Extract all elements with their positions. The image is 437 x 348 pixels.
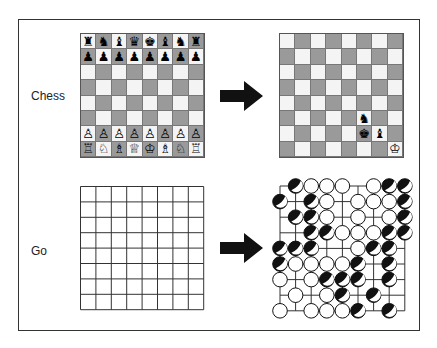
white-stone-icon: [320, 194, 335, 209]
chess-square: [143, 65, 158, 80]
chess-square: [295, 142, 310, 157]
chess-square: [173, 65, 188, 80]
chess-square: ♚: [143, 34, 158, 49]
chess-piece-icon: ♚: [358, 127, 370, 140]
chess-square: ♖: [189, 142, 204, 157]
chess-square: [342, 126, 357, 141]
chess-square: [388, 49, 403, 64]
chess-piece-icon: ♟: [190, 50, 202, 63]
chess-square: [326, 49, 341, 64]
chess-square: ♞: [96, 34, 111, 49]
chess-square: [127, 96, 142, 111]
chess-square: [295, 49, 310, 64]
chess-square: [189, 111, 204, 126]
chess-piece-icon: ♙: [98, 127, 110, 140]
white-stone-icon: [304, 272, 319, 287]
chess-square: [96, 80, 111, 95]
chess-square: ♘: [173, 142, 188, 157]
white-stone-icon: [288, 257, 303, 272]
black-stone-icon: [288, 179, 303, 194]
chess-piece-icon: ♖: [82, 142, 94, 155]
chess-piece-icon: ♗: [113, 142, 125, 155]
chess-piece-icon: ♞: [175, 35, 187, 48]
chess-piece-icon: ♟: [144, 50, 156, 63]
white-stone-icon: [320, 210, 335, 225]
white-stone-icon: [320, 257, 335, 272]
chess-square: [388, 65, 403, 80]
black-stone-icon: [351, 257, 366, 272]
white-stone-icon: [335, 304, 350, 319]
black-stone-icon: [273, 257, 288, 272]
black-stone-icon: [366, 288, 381, 303]
chess-square: [326, 126, 341, 141]
chess-square: ♟: [112, 49, 127, 64]
chess-square: ♗: [112, 142, 127, 157]
white-stone-icon: [366, 194, 381, 209]
black-stone-icon: [398, 226, 413, 241]
chess-square: [96, 65, 111, 80]
chess-piece-icon: ♟: [129, 50, 141, 63]
chess-square: [189, 80, 204, 95]
chess-piece-icon: ♘: [175, 142, 187, 155]
white-stone-icon: [351, 210, 366, 225]
black-stone-icon: [304, 226, 319, 241]
chess-square: ♞: [357, 111, 372, 126]
chess-square: [342, 65, 357, 80]
black-stone-icon: [320, 226, 335, 241]
chess-piece-icon: ♜: [82, 35, 94, 48]
black-stone-icon: [320, 272, 335, 287]
white-stone-icon: [304, 179, 319, 194]
chess-square: [311, 34, 326, 49]
chess-square: [388, 111, 403, 126]
white-stone-icon: [382, 210, 397, 225]
black-stone-icon: [351, 304, 366, 319]
chess-square: ♘: [96, 142, 111, 157]
chess-square: [96, 111, 111, 126]
chess-square: ♟: [158, 49, 173, 64]
white-stone-icon: [304, 304, 319, 319]
chess-piece-icon: ♝: [159, 35, 171, 48]
chess-square: ♜: [189, 34, 204, 49]
chess-square: [112, 96, 127, 111]
black-stone-icon: [335, 288, 350, 303]
chess-square: [127, 111, 142, 126]
chess-square: [326, 65, 341, 80]
chess-square: [342, 142, 357, 157]
chess-piece-icon: ♜: [190, 35, 202, 48]
black-stone-icon: [382, 179, 397, 194]
chess-square: [357, 34, 372, 49]
chess-square: [295, 80, 310, 95]
chess-square: [295, 65, 310, 80]
black-stone-icon: [382, 257, 397, 272]
chess-square: [372, 96, 387, 111]
chess-square: [372, 80, 387, 95]
chess-piece-icon: ♙: [175, 127, 187, 140]
chess-square: ♔: [143, 142, 158, 157]
chess-square: [311, 126, 326, 141]
white-stone-icon: [320, 288, 335, 303]
chess-square: [295, 111, 310, 126]
chess-square: [280, 49, 295, 64]
chess-square: ♙: [173, 126, 188, 141]
chess-square: [311, 111, 326, 126]
chess-square: [96, 96, 111, 111]
black-stone-icon: [273, 194, 288, 209]
chess-square: [280, 111, 295, 126]
chess-piece-icon: ♔: [389, 142, 401, 155]
chess-piece-icon: ♝: [374, 127, 386, 140]
chess-square: [326, 80, 341, 95]
chess-square: [189, 96, 204, 111]
chess-square: [388, 80, 403, 95]
chess-square: [388, 126, 403, 141]
white-stone-icon: [335, 226, 350, 241]
chess-square: ♟: [173, 49, 188, 64]
chess-piece-icon: ♗: [159, 142, 171, 155]
arrow-right-icon: [220, 233, 264, 263]
chess-square: [112, 80, 127, 95]
black-stone-icon: [366, 241, 381, 256]
chess-square: ♟: [127, 49, 142, 64]
chess-square: [326, 111, 341, 126]
chess-square: [326, 142, 341, 157]
chess-square: [372, 142, 387, 157]
chess-square: [372, 49, 387, 64]
